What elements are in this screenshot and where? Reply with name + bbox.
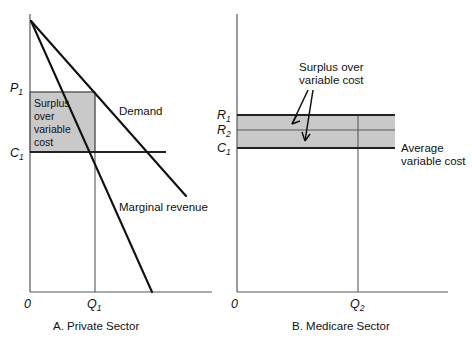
panel-a: P1 C1 0 Q1 Demand Marginal revenue Surpl…: [10, 14, 212, 332]
figure-svg: P1 C1 0 Q1 Demand Marginal revenue Surpl…: [0, 0, 472, 340]
panel-b-q2-label: Q2: [350, 297, 365, 313]
panel-b-r2-label: R2: [217, 123, 231, 139]
economics-figure: P1 C1 0 Q1 Demand Marginal revenue Surpl…: [0, 0, 472, 340]
panel-b-r1-label: R1: [217, 108, 231, 124]
panel-b: R1 R2 C1 0 Q2 Surplus over variable cost…: [217, 14, 466, 332]
panel-b-caption: B. Medicare Sector: [292, 320, 390, 332]
avc-label-line-1: Average: [401, 142, 444, 154]
marginal-revenue-curve: [31, 21, 152, 292]
panel-a-caption: A. Private Sector: [53, 320, 139, 332]
panel-b-c1-label: C1: [217, 141, 231, 157]
surplus-box-line-1: Surplus: [34, 97, 70, 109]
surplus-annotation-line-1: Surplus over: [299, 61, 364, 73]
marginal-revenue-label: Marginal revenue: [119, 201, 208, 213]
surplus-box-line-2: over: [34, 110, 55, 122]
surplus-bands-fill: [237, 115, 395, 148]
panel-a-origin-label: 0: [24, 297, 31, 311]
panel-a-c1-label: C1: [10, 146, 24, 162]
avc-label-line-2: variable cost: [401, 155, 466, 167]
panel-a-p1-label: P1: [10, 81, 23, 97]
panel-a-q1-label: Q1: [87, 297, 102, 313]
demand-label: Demand: [119, 105, 162, 117]
surplus-box-line-4: cost: [34, 136, 53, 148]
panel-b-origin-label: 0: [231, 297, 238, 311]
surplus-annotation-line-2: variable cost: [299, 74, 364, 86]
surplus-box-line-3: variable: [34, 123, 71, 135]
